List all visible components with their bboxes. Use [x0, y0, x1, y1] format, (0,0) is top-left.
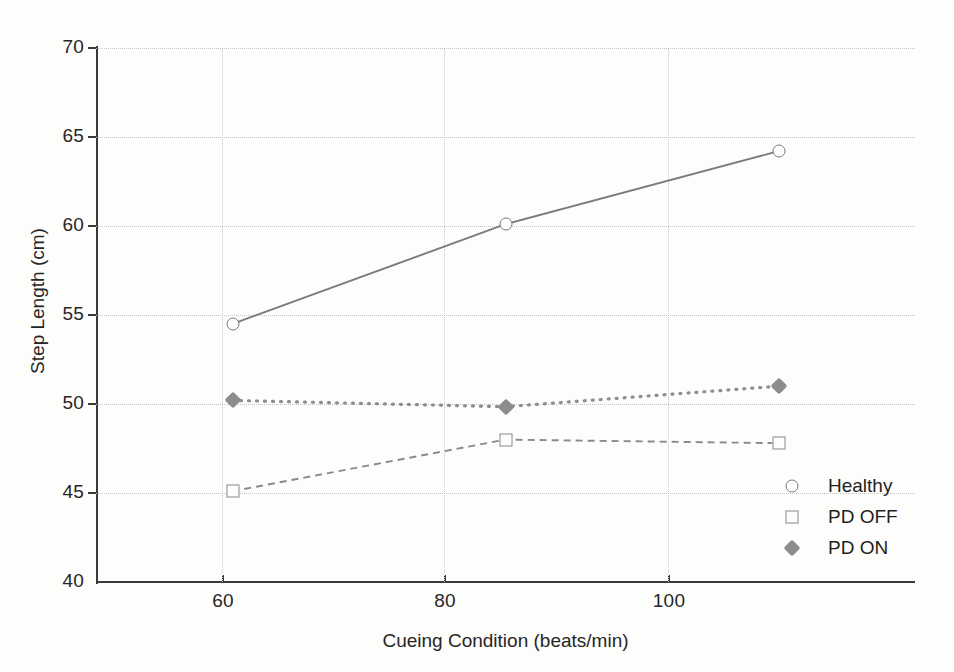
x-axis-title: Cueing Condition (beats/min) [96, 630, 915, 652]
legend-label: PD ON [818, 537, 888, 559]
data-point-pd-on-80[interactable] [497, 398, 514, 415]
legend-item-healthy[interactable]: Healthy [766, 470, 941, 501]
open-circle-marker-icon [786, 479, 799, 492]
legend-swatch-pd-off [766, 506, 818, 528]
filled-diamond-marker-icon [784, 539, 801, 556]
data-point-pd-off-60[interactable] [226, 485, 239, 498]
legend-item-pd-off[interactable]: PD OFF [766, 501, 941, 532]
y-tick-label: 40 [62, 570, 84, 592]
chart-figure: 70 65 60 55 50 45 40 60 80 100 Cueing Co… [0, 0, 954, 672]
data-point-pd-on-100[interactable] [770, 378, 787, 395]
open-square-marker-icon [786, 510, 799, 523]
y-tick-label: 45 [62, 481, 84, 503]
legend-label: PD OFF [818, 506, 898, 528]
x-tick-label: 60 [188, 590, 258, 612]
legend-swatch-healthy [766, 475, 818, 497]
legend-swatch-pd-on [766, 537, 818, 559]
y-tick-label: 60 [62, 214, 84, 236]
y-tick-label: 50 [62, 392, 84, 414]
y-axis-title: Step Length (cm) [27, 171, 49, 431]
y-tick-label: 65 [62, 125, 84, 147]
y-tick-label: 55 [62, 303, 84, 325]
data-point-healthy-60[interactable] [226, 317, 239, 330]
legend: Healthy PD OFF PD ON [766, 470, 941, 563]
data-point-pd-on-60[interactable] [224, 392, 241, 409]
data-point-pd-off-100[interactable] [772, 437, 785, 450]
data-point-pd-off-80[interactable] [499, 433, 512, 446]
legend-item-pd-on[interactable]: PD ON [766, 532, 941, 563]
data-point-healthy-80[interactable] [499, 218, 512, 231]
legend-label: Healthy [818, 475, 892, 497]
y-tick-label: 70 [62, 36, 84, 58]
data-point-healthy-100[interactable] [772, 145, 785, 158]
x-tick-label: 80 [410, 590, 480, 612]
x-tick-label: 100 [634, 590, 704, 612]
